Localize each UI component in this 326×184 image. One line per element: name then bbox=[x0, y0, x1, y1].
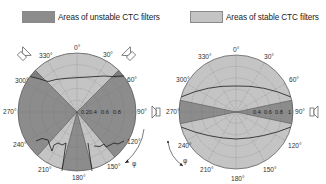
svg-text:0°: 0° bbox=[233, 46, 240, 53]
svg-text:330°: 330° bbox=[198, 53, 212, 60]
svg-text:240°: 240° bbox=[178, 142, 192, 149]
svg-text:150°: 150° bbox=[263, 166, 277, 173]
svg-text:90°: 90° bbox=[137, 108, 147, 115]
svg-text:0.4: 0.4 bbox=[89, 109, 97, 115]
right-polar-plot: 0.4 0.6 0.8 1 0° 30° 60° 90° 120° 150° 1… bbox=[152, 46, 318, 182]
svg-text:210°: 210° bbox=[38, 166, 52, 173]
svg-text:300°: 300° bbox=[176, 76, 190, 83]
svg-text:0.8: 0.8 bbox=[275, 109, 283, 115]
svg-text:120°: 120° bbox=[127, 138, 141, 145]
left-radial-ticks: 0.2 0.4 0.6 0.8 bbox=[81, 109, 121, 115]
svg-text:270°: 270° bbox=[166, 108, 180, 115]
svg-text:300°: 300° bbox=[15, 77, 29, 84]
svg-text:0°: 0° bbox=[74, 44, 81, 51]
svg-text:0.2: 0.2 bbox=[81, 109, 89, 115]
svg-text:0.8: 0.8 bbox=[113, 109, 121, 115]
svg-text:60°: 60° bbox=[289, 76, 299, 83]
svg-text:270°: 270° bbox=[3, 108, 17, 115]
loudspeaker-icon bbox=[310, 106, 318, 118]
svg-text:60°: 60° bbox=[127, 76, 137, 83]
left-polar-plot: 0.2 0.4 0.6 0.8 0° 30° 60° 90° 120° 150°… bbox=[3, 44, 147, 181]
svg-text:180°: 180° bbox=[72, 174, 86, 181]
svg-text:30°: 30° bbox=[103, 51, 113, 58]
svg-text:30°: 30° bbox=[264, 53, 274, 60]
loudspeaker-icon bbox=[122, 47, 137, 62]
svg-text:0.6: 0.6 bbox=[264, 109, 272, 115]
svg-text:0.6: 0.6 bbox=[101, 109, 109, 115]
svg-text:210°: 210° bbox=[200, 166, 214, 173]
loudspeaker-icon bbox=[152, 106, 160, 118]
svg-text:330°: 330° bbox=[39, 52, 53, 59]
svg-text:180°: 180° bbox=[231, 175, 245, 182]
svg-text:φ: φ bbox=[183, 157, 187, 165]
loudspeaker-icon bbox=[16, 47, 31, 62]
svg-text:90°: 90° bbox=[295, 108, 305, 115]
polar-diagrams: 0.2 0.4 0.6 0.8 0° 30° 60° 90° 120° 150°… bbox=[0, 0, 326, 184]
svg-text:1: 1 bbox=[288, 109, 291, 115]
svg-text:0.4: 0.4 bbox=[253, 109, 261, 115]
svg-text:120°: 120° bbox=[288, 142, 302, 149]
svg-text:150°: 150° bbox=[107, 163, 121, 170]
svg-text:φ: φ bbox=[132, 160, 136, 168]
svg-text:240°: 240° bbox=[13, 141, 27, 148]
